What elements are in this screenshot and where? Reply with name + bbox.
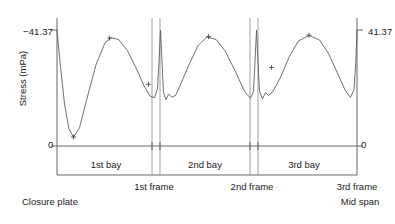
y-tick-label-top-right: 41.37 (368, 26, 392, 37)
stress-distribution-chart: −41.37 41.37 0 0 Stress (mPa) 1st bay 2n… (0, 0, 395, 224)
stress-curve (57, 30, 357, 137)
bay-label-3: 3rd bay (258, 159, 350, 170)
y-tick-label-zero-right: 0 (361, 139, 366, 150)
plus-marker (269, 65, 274, 70)
bay-label-2: 2nd bay (160, 159, 250, 170)
frame-label-3: 3rd frame (327, 181, 387, 192)
frame-label-1: 1st frame (124, 181, 184, 192)
y-tick-label-zero-left: 0 (48, 139, 53, 150)
plus-marker (206, 34, 211, 39)
plus-marker (71, 135, 76, 140)
plus-marker (146, 82, 151, 87)
mid-span-label: Mid span (330, 196, 390, 207)
axis-group (51, 18, 363, 175)
bay-label-1: 1st bay (60, 159, 152, 170)
y-axis-title: Stress (mPa) (17, 29, 28, 129)
closure-plate-label: Closure plate (22, 196, 78, 207)
plus-marker (107, 36, 112, 41)
plus-marker (307, 33, 312, 38)
frame-label-2: 2nd frame (222, 181, 282, 192)
